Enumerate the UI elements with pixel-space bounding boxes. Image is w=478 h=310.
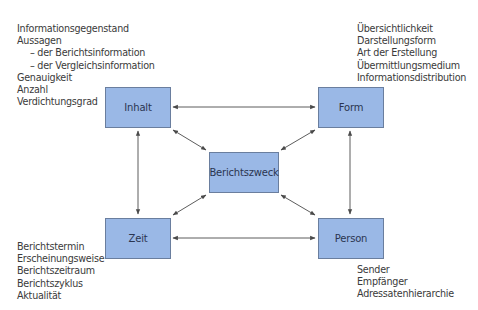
list-zeit-attributes: Berichtstermin Erscheinungsweise Bericht… bbox=[17, 241, 104, 302]
list-item: Darstellungsform bbox=[357, 35, 466, 47]
list-item: Aktualität bbox=[17, 290, 104, 302]
list-item: Genauigkeit bbox=[17, 72, 155, 84]
list-item: Art der Erstellung bbox=[357, 47, 466, 59]
node-person: Person bbox=[318, 218, 384, 259]
node-form: Form bbox=[318, 87, 384, 128]
arrow-zweck-form bbox=[281, 130, 315, 150]
list-item: Verdichtungsgrad bbox=[17, 96, 155, 108]
node-berichtszweck: Berichtszweck bbox=[209, 152, 279, 193]
diagram-canvas: Inhalt Form Berichtszweck Zeit Person In… bbox=[0, 0, 478, 310]
node-person-label: Person bbox=[335, 233, 367, 244]
list-item: Aussagen bbox=[17, 35, 155, 47]
list-inhalt-attributes: Informationsgegenstand Aussagen – der Be… bbox=[17, 23, 155, 108]
node-zeit-label: Zeit bbox=[129, 233, 148, 244]
list-item: Berichtszyklus bbox=[17, 278, 104, 290]
list-item: Berichtszeitraum bbox=[17, 265, 104, 277]
list-person-attributes: Sender Empfänger Adressatenhierarchie bbox=[357, 264, 454, 301]
list-item: Übersichtlichkeit bbox=[357, 23, 466, 35]
node-zeit: Zeit bbox=[105, 218, 171, 259]
node-berichtszweck-label: Berichtszweck bbox=[209, 167, 278, 178]
list-item: Sender bbox=[357, 264, 454, 276]
list-form-attributes: Übersichtlichkeit Darstellungsform Art d… bbox=[357, 23, 466, 84]
list-item: Empfänger bbox=[357, 276, 454, 288]
list-item: Informationsdistribution bbox=[357, 72, 466, 84]
list-item: Erscheinungsweise bbox=[17, 253, 104, 265]
list-item: Informationsgegenstand bbox=[17, 23, 155, 35]
arrow-zweck-inhalt bbox=[173, 130, 206, 150]
list-item: Übermittlungsmedium bbox=[357, 60, 466, 72]
node-form-label: Form bbox=[339, 102, 363, 113]
arrow-zweck-person bbox=[281, 195, 315, 215]
list-item: Berichtstermin bbox=[17, 241, 104, 253]
list-item: Adressatenhierarchie bbox=[357, 288, 454, 300]
list-item: – der Berichtsinformation bbox=[17, 47, 155, 59]
list-item: Anzahl bbox=[17, 84, 155, 96]
arrow-zweck-zeit bbox=[173, 195, 206, 215]
list-item: – der Vergleichsinformation bbox=[17, 60, 155, 72]
